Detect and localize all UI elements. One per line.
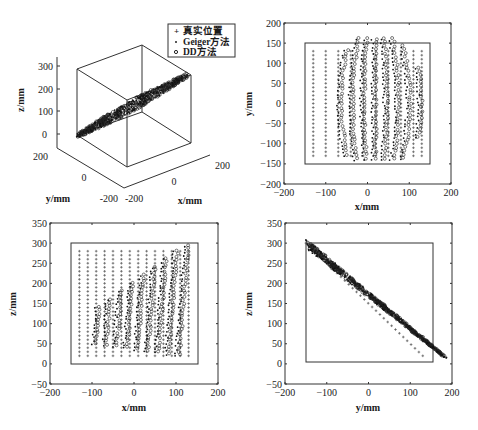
scatter-points (312, 36, 424, 161)
y-tick: 150 (32, 298, 47, 309)
y-tick: 300 (32, 238, 47, 249)
y-axis-label: y/mm (243, 91, 254, 116)
z-tick: 0 (42, 129, 47, 140)
y-tick: 50 (272, 338, 282, 349)
axis-ticks: −200−1000100200−50050100150200250300350 (31, 218, 225, 399)
y-tick: −50 (265, 118, 281, 129)
legend-marker-dot (175, 41, 177, 43)
x-tick: −100 (82, 387, 103, 398)
legend-label-geiger: Geiger方法 (183, 36, 230, 47)
y-tick: 300 (267, 238, 282, 249)
y-tick: 200 (33, 151, 48, 162)
z-axis-label: z/mm (7, 291, 18, 316)
legend-marker-plus: + (174, 26, 179, 36)
y-tick: 100 (266, 58, 281, 69)
x-tick: 0 (365, 187, 370, 198)
panel-xy: −200−1000100200−200−150−100−500501001502… (243, 18, 459, 213)
panel-yz: −200−1000100200−50050100150200250300350 … (243, 218, 460, 414)
z-tick: 300 (38, 61, 53, 72)
point-cloud-3d (76, 72, 189, 138)
y-tick: 0 (277, 358, 282, 369)
scatter-points (305, 239, 448, 359)
x-tick: 100 (403, 387, 418, 398)
scatter-points (78, 244, 190, 357)
z-tick: 100 (38, 106, 53, 117)
axis-ticks: −200−1000100200−50050100150200250300350 (266, 218, 459, 399)
y-tick: −50 (31, 379, 47, 390)
y-tick: −100 (260, 138, 281, 149)
y-tick: 250 (267, 258, 282, 269)
y-tick: 150 (267, 298, 282, 309)
z-axis-label: z/mm (15, 87, 26, 112)
x-tick: 200 (211, 387, 226, 398)
y-tick: 200 (266, 18, 281, 29)
y-axis-label: y/mm (46, 193, 71, 204)
x-tick: 0 (132, 387, 137, 398)
y-tick: 350 (267, 218, 282, 229)
figure: 300 200 100 0 z/mm 200 0 -200 y/mm -200 … (0, 0, 478, 430)
axis-ticks: −200−1000100200−200−150−100−500501001502… (260, 18, 458, 199)
y-tick: 100 (32, 318, 47, 329)
x-axis-label: x/mm (178, 195, 203, 206)
panel-xz: −200−1000100200−50050100150200250300350 … (7, 218, 226, 414)
y-tick: 150 (266, 38, 281, 49)
x-tick: 200 (444, 187, 459, 198)
x-tick: −100 (315, 187, 336, 198)
x-axis-label: x/mm (355, 201, 380, 212)
x-tick: 100 (169, 387, 184, 398)
x-tick: −100 (316, 387, 337, 398)
x-tick: -200 (125, 193, 143, 204)
z-tick: 200 (38, 84, 53, 95)
y-tick: 0 (42, 358, 47, 369)
y-tick: −150 (260, 158, 281, 169)
x-tick: 0 (366, 387, 371, 398)
y-tick: 350 (32, 218, 47, 229)
x-tick: 200 (215, 160, 230, 171)
y-tick: 0 (276, 98, 281, 109)
legend: + 真实位置 Geiger方法 DD方法 (168, 24, 235, 57)
z-axis-label: z/mm (243, 291, 254, 316)
y-tick: 200 (267, 278, 282, 289)
x-tick: 100 (402, 187, 417, 198)
y-tick: 250 (32, 258, 47, 269)
x-tick: 200 (445, 387, 460, 398)
y-tick: 50 (37, 338, 47, 349)
legend-label-true: 真实位置 (183, 25, 223, 36)
y-tick: 100 (267, 318, 282, 329)
y-tick: 0 (82, 172, 87, 183)
y-tick: −50 (266, 379, 282, 390)
cube-frame (77, 45, 191, 167)
y-axis-label: y/mm (356, 402, 381, 413)
panel-3d: 300 200 100 0 z/mm 200 0 -200 y/mm -200 … (15, 24, 235, 206)
y-tick: −200 (260, 179, 281, 190)
legend-label-dd: DD方法 (183, 46, 217, 57)
x-axis-label: x/mm (122, 402, 147, 413)
y-tick: -200 (100, 193, 118, 204)
y-tick: 200 (32, 278, 47, 289)
y-tick: 50 (271, 78, 281, 89)
x-tick: 0 (172, 176, 177, 187)
